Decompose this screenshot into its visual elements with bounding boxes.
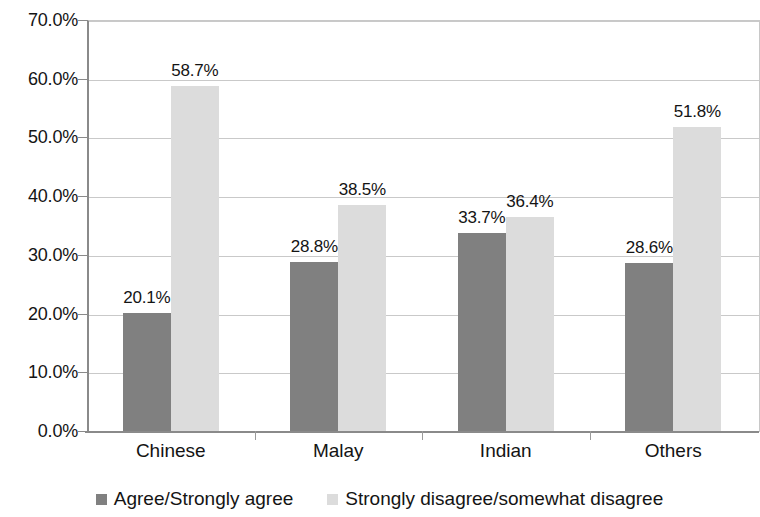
y-axis-tick-mark	[78, 372, 88, 373]
x-axis-category-label: Malay	[268, 440, 408, 462]
bar	[673, 127, 721, 431]
y-axis-tick-label: 10.0%	[0, 363, 78, 381]
x-axis-category-label: Chinese	[101, 440, 241, 462]
y-axis-tick-label: 0.0%	[0, 422, 78, 440]
legend-swatch-icon	[327, 494, 338, 505]
bar	[123, 313, 171, 431]
legend-item[interactable]: Strongly disagree/somewhat disagree	[327, 488, 663, 510]
bar-value-label: 51.8%	[657, 103, 737, 120]
x-axis-category-label: Indian	[436, 440, 576, 462]
y-axis-tick-label: 70.0%	[0, 11, 78, 29]
x-axis-tick-mark	[255, 431, 256, 440]
legend-label: Agree/Strongly agree	[114, 488, 294, 510]
y-axis-tick-mark	[78, 79, 88, 80]
y-axis-tick-label: 40.0%	[0, 187, 78, 205]
bar-value-label: 36.4%	[490, 193, 570, 210]
y-axis-tick-mark	[78, 196, 88, 197]
x-axis-category-labels: ChineseMalayIndianOthers	[87, 440, 757, 470]
legend-swatch-icon	[96, 494, 107, 505]
bar	[458, 233, 506, 431]
legend-label: Strongly disagree/somewhat disagree	[345, 488, 663, 510]
bar	[290, 262, 338, 431]
chart-legend: Agree/Strongly agreeStrongly disagree/so…	[0, 484, 759, 514]
y-axis-tick-mark	[78, 431, 88, 432]
y-axis-tick-label: 20.0%	[0, 305, 78, 323]
y-axis-tick-mark	[78, 20, 88, 21]
y-axis-tick-mark	[78, 137, 88, 138]
y-axis-tick-mark	[78, 255, 88, 256]
bar-value-label: 20.1%	[107, 289, 187, 306]
y-axis-tick-label: 50.0%	[0, 128, 78, 146]
bar-value-label: 28.8%	[274, 238, 354, 255]
bar	[506, 217, 554, 431]
bar-value-label: 58.7%	[155, 62, 235, 79]
x-axis-tick-mark	[590, 431, 591, 440]
bar-value-label: 38.5%	[322, 181, 402, 198]
y-axis: 0.0%10.0%20.0%30.0%40.0%50.0%60.0%70.0%	[0, 0, 78, 440]
y-axis-tick-label: 60.0%	[0, 70, 78, 88]
legend-item[interactable]: Agree/Strongly agree	[96, 488, 294, 510]
bars-layer	[87, 20, 757, 431]
bar	[625, 263, 673, 431]
x-axis-tick-mark	[422, 431, 423, 440]
bar-value-label: 28.6%	[609, 239, 689, 256]
bar	[171, 86, 219, 431]
y-axis-tick-mark	[78, 314, 88, 315]
x-axis-category-label: Others	[603, 440, 743, 462]
y-axis-tick-label: 30.0%	[0, 246, 78, 264]
bar-value-label: 33.7%	[442, 209, 522, 226]
